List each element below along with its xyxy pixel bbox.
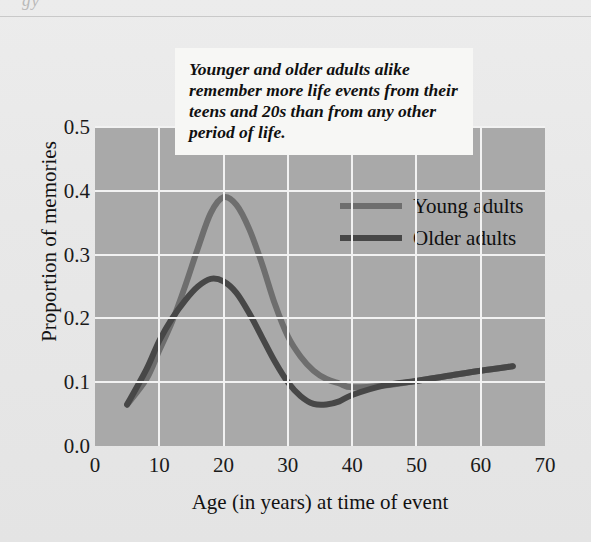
chart-legend: Young adultsOlder adults [340,190,540,254]
legend-item: Young adults [340,190,540,222]
page-bleed-text: gy [22,0,40,11]
gridline-horizontal [95,254,545,256]
gridline-horizontal [95,381,545,383]
x-tick-label: 20 [204,455,244,476]
x-tick-label: 40 [332,455,372,476]
gridline-horizontal [95,317,545,319]
y-axis-title: Proportion of memories [37,107,62,377]
x-tick-label: 10 [139,455,179,476]
gridline-vertical [480,127,482,446]
gridline-vertical [351,127,353,446]
y-tick-label: 0.0 [38,436,90,457]
figure-container: 0.00.10.20.30.40.5 010203040506070 Propo… [0,17,591,542]
x-tick-label: 30 [268,455,308,476]
x-axis-tick-labels: 010203040506070 [95,455,545,481]
gridline-horizontal [95,190,545,192]
legend-swatch-icon [340,203,402,209]
gridline-vertical [223,127,225,446]
x-tick-label: 50 [396,455,436,476]
chart-curves [95,127,545,446]
x-axis-title: Age (in years) at time of event [95,490,545,515]
callout-text: Younger and older adults alike remember … [189,59,460,143]
legend-item: Older adults [340,222,540,254]
plot-area: Young adultsOlder adults [95,127,545,446]
legend-label: Young adults [413,196,523,217]
gridline-vertical [415,127,417,446]
gridline-vertical [158,127,160,446]
series-line-older-adults [127,279,513,405]
x-tick-label: 0 [75,455,115,476]
legend-label: Older adults [413,228,516,249]
callout-box: Younger and older adults alike remember … [175,48,473,155]
legend-swatch-icon [340,235,402,241]
x-tick-label: 60 [461,455,501,476]
x-tick-label: 70 [525,455,565,476]
gridline-vertical [287,127,289,446]
